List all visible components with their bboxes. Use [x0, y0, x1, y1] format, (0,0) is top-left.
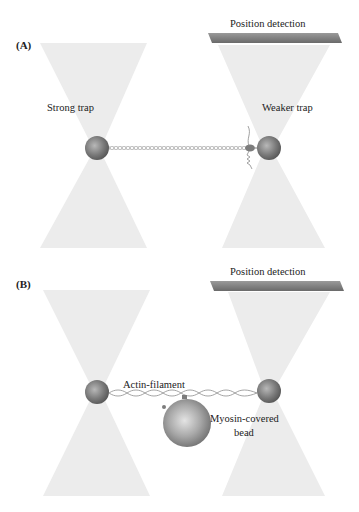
myosin-molecule-a	[245, 126, 257, 169]
myosin-head-b	[182, 395, 187, 399]
position-detector-a	[208, 33, 342, 43]
position-detection-label-b: Position detection	[230, 267, 306, 278]
panel-a	[40, 33, 342, 248]
myosin-covered-bead	[163, 399, 211, 447]
myosin-covered-label-line2: bead	[234, 428, 254, 439]
right-bead-a	[257, 136, 281, 160]
right-bead-b	[257, 379, 281, 403]
left-bead-a	[85, 136, 109, 160]
position-detection-label-a: Position detection	[230, 19, 306, 30]
weaker-trap-label: Weaker trap	[262, 103, 313, 114]
myosin-head-side-b	[162, 405, 166, 409]
strong-trap-label: Strong trap	[47, 103, 94, 114]
optical-trap-diagram	[0, 0, 359, 512]
actin-filament-label: Actin-filament	[123, 380, 185, 391]
panel-b	[43, 281, 344, 496]
panel-label-a: (A)	[16, 40, 31, 51]
myosin-covered-label-line1: Myosin-covered	[210, 414, 279, 425]
actin-filament-a	[109, 146, 249, 150]
left-bead-b	[85, 380, 109, 404]
panel-label-b: (B)	[16, 279, 31, 290]
position-detector-b	[210, 281, 344, 291]
